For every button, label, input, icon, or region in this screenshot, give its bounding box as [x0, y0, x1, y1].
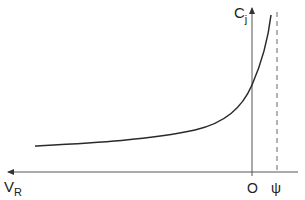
y-axis-label: Cj	[234, 4, 247, 25]
psi-label: ψ	[271, 180, 281, 196]
x-axis-label: VR	[4, 178, 22, 198]
capacitance-diagram: Cj VR O ψ	[0, 0, 305, 200]
cj-curve	[35, 15, 271, 146]
origin-label: O	[247, 180, 258, 196]
